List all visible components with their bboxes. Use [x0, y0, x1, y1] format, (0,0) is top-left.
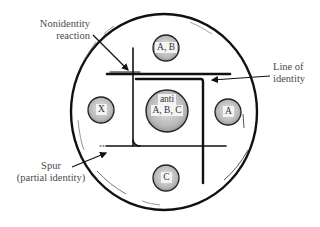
well-center-label: anti A, B, C: [147, 94, 187, 116]
nonidentity-label: Nonidentity reaction: [34, 18, 90, 42]
identity-line2: identity: [273, 73, 305, 85]
spur-label: Spur (partial identity): [12, 160, 90, 184]
diagram-canvas: anti A, B, C A, B X A C Nonidentity reac…: [0, 0, 320, 227]
identity-arrow-icon: [212, 76, 270, 80]
well-right-label: A: [223, 106, 234, 117]
identity-label: Line of identity: [273, 61, 305, 85]
spur-line2: (partial identity): [12, 172, 90, 184]
nonidentity-line1: Nonidentity: [34, 18, 90, 30]
well-left-label: X: [96, 104, 107, 115]
spur-line1: Spur: [12, 160, 90, 172]
well-center-line1: anti: [158, 94, 176, 105]
nonidentity-line2: reaction: [34, 30, 90, 42]
well-center-line2: A, B, C: [151, 105, 182, 116]
nonidentity-arrow-icon: [93, 35, 128, 70]
well-top-label: A, B: [155, 42, 177, 53]
well-bottom-label: C: [161, 172, 172, 183]
identity-line1: Line of: [273, 61, 305, 73]
